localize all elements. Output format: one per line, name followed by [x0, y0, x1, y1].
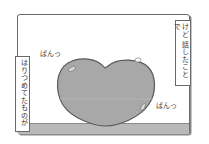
sound-effect-top: ぱんっ — [40, 48, 61, 58]
caption-left: はりつめてたものが — [15, 56, 30, 132]
caption-right: けど 話したことで — [175, 20, 191, 86]
sound-effect-bottom: ぱんっ — [156, 100, 177, 110]
highlight-dot — [136, 111, 138, 113]
balloon-knot — [135, 58, 141, 62]
